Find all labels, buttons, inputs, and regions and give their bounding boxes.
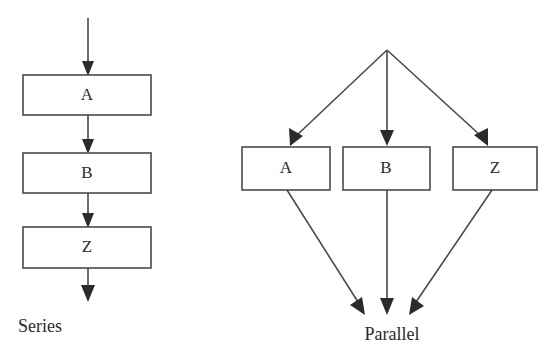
series-node-b[interactable]: B — [23, 153, 151, 193]
series-output-arrow — [81, 268, 95, 302]
series-panel: A B Z — [18, 18, 151, 336]
series-input-arrow — [82, 18, 94, 76]
parallel-node-a[interactable]: A — [242, 147, 330, 190]
parallel-node-z[interactable]: Z — [453, 147, 537, 190]
parallel-join-arrow-right — [409, 190, 492, 315]
series-node-a-label: A — [81, 85, 94, 104]
parallel-join-arrow-center — [380, 190, 394, 315]
parallel-panel: A B Z — [242, 50, 537, 344]
block-diagram: A B Z — [0, 0, 560, 358]
parallel-node-b[interactable]: B — [343, 147, 430, 190]
series-edge-b-z — [82, 193, 94, 228]
parallel-split-arrow-left — [289, 50, 387, 146]
parallel-join-arrow-left — [287, 190, 365, 315]
parallel-split-arrow-right — [387, 50, 488, 146]
series-node-z-label: Z — [82, 237, 92, 256]
series-node-b-label: B — [81, 163, 92, 182]
parallel-node-a-label: A — [280, 158, 293, 177]
parallel-node-z-label: Z — [490, 158, 500, 177]
series-node-z[interactable]: Z — [23, 227, 151, 268]
series-edge-a-b — [82, 115, 94, 154]
parallel-node-b-label: B — [380, 158, 391, 177]
parallel-caption: Parallel — [365, 324, 420, 344]
series-caption: Series — [18, 316, 62, 336]
parallel-split-arrow-center — [380, 50, 394, 146]
diagram-canvas: A B Z — [0, 0, 560, 358]
series-node-a[interactable]: A — [23, 75, 151, 115]
